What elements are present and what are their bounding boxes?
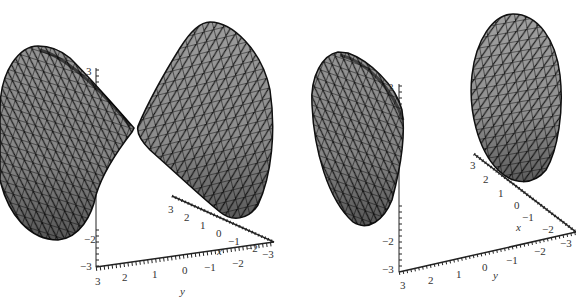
y-axis-right (399, 232, 576, 274)
surface-sheet-right-a (312, 52, 403, 226)
surface-sheet-left-a (0, 46, 134, 240)
surface-sheet-left-b (138, 22, 273, 218)
plot-panel-right: 3 −2 −3 3 2 1 0 −1 −2 −3 x 3 2 1 0 −1 −2… (288, 0, 576, 299)
y-axis-left (96, 242, 274, 269)
surface-plot-right (288, 0, 576, 299)
surface-plot-left (0, 0, 288, 299)
surface-sheet-right-b (471, 14, 561, 182)
plot-panel-left: 3 −2 −3 3 2 1 0 −1 −2 −3 x 3 2 1 0 −1 −2… (0, 0, 288, 299)
